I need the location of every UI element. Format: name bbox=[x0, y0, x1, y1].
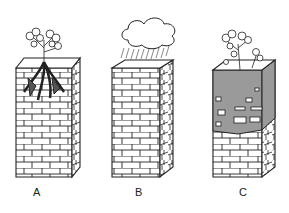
block-c bbox=[213, 30, 275, 177]
block-a bbox=[16, 28, 80, 177]
weathering-diagram bbox=[0, 0, 289, 213]
plant-icon bbox=[26, 28, 62, 62]
cloud-icon bbox=[122, 18, 175, 49]
block-b bbox=[112, 18, 175, 177]
panel-label-a: A bbox=[33, 186, 40, 198]
rain-icon bbox=[121, 46, 169, 59]
panel-label-b: B bbox=[135, 186, 142, 198]
panel-label-c: C bbox=[239, 186, 247, 198]
